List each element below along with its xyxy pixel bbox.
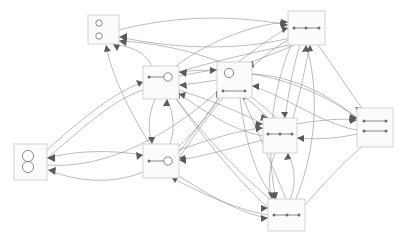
edges-layer — [47, 18, 362, 218]
arrowhead-n9-n5 — [302, 45, 309, 52]
endpoint-dot — [148, 76, 151, 79]
edge-n3-n5 — [176, 22, 288, 66]
node-double-bar-right[interactable] — [357, 108, 393, 147]
endpoint-dot-bottom-right — [385, 130, 388, 133]
edge-n2-n4 — [47, 92, 217, 165]
node-circle-and-bar[interactable] — [217, 62, 252, 98]
arrowhead-n3-n2 — [47, 154, 55, 162]
arrowhead-n6-n4 — [252, 83, 259, 90]
node-two-circles-touching[interactable] — [14, 144, 47, 180]
edge-n7-n9 — [179, 176, 268, 218]
edge-n6-n8 — [297, 134, 357, 139]
edge-n5-n6 — [318, 45, 362, 108]
edge-n4-n7 — [179, 96, 220, 152]
edge-n8-n6 — [297, 119, 357, 124]
node-box[interactable] — [143, 66, 179, 99]
endpoint-dot-right — [244, 90, 247, 93]
circle-glyph-bottom — [22, 161, 33, 172]
edge-n4-n6 — [252, 74, 357, 118]
edge-n9-n8 — [288, 153, 294, 199]
arrowhead-n7-n1 — [104, 45, 111, 52]
circle-glyph — [224, 68, 233, 77]
arrowhead-n7-n8 — [256, 125, 263, 132]
graph-svg — [0, 0, 402, 238]
node-box[interactable] — [88, 15, 119, 44]
endpoint-dot-top-right — [385, 120, 388, 123]
endpoint-dot-right — [318, 27, 321, 30]
arrowhead-n3-n4 — [210, 67, 217, 74]
endpoint-dot-left — [293, 27, 296, 30]
edge-n7-n8 — [179, 128, 263, 150]
edge-n8-n5 — [293, 45, 310, 118]
endpoint-dot — [148, 160, 151, 163]
endpoint-dot-bottom-left — [363, 130, 366, 133]
arrowhead-n4-n5 — [281, 26, 288, 33]
node-two-circles-separated[interactable] — [88, 15, 119, 44]
arrowhead-n6-n8 — [297, 135, 304, 142]
node-box[interactable] — [357, 108, 393, 147]
edge-n4-n5 — [238, 28, 288, 62]
arrowhead-n4-n3 — [179, 82, 187, 89]
arrowhead-n3-n9 — [261, 205, 268, 212]
arrowhead-n5-n8 — [281, 112, 288, 118]
circle-glyph-top — [96, 20, 102, 26]
edge-n9-n7 — [172, 178, 268, 215]
edge-n1-n5 — [119, 18, 288, 30]
arrowhead-n4-n1 — [119, 38, 127, 46]
endpoint-dot-top-left — [363, 120, 366, 123]
node-box[interactable] — [217, 62, 252, 98]
edge-n2-n3 — [47, 82, 143, 150]
node-bar-top-right[interactable] — [288, 11, 325, 45]
midpoint-dot — [279, 133, 282, 136]
edge-n5-n1 — [119, 37, 290, 47]
edge-n5-n4 — [246, 45, 295, 64]
circle-glyph — [164, 73, 172, 81]
endpoint-dot-right — [291, 133, 294, 136]
midpoint-dot — [286, 214, 289, 217]
arrowhead-n2-n7 — [136, 152, 143, 160]
endpoint-dot-left — [267, 133, 270, 136]
circle-glyph — [164, 157, 172, 165]
nodes-layer — [14, 11, 393, 231]
edge-n9-n6 — [305, 147, 362, 205]
arrowhead-n7-n2 — [48, 167, 56, 175]
arrowhead-n3-n1 — [113, 44, 120, 51]
arrowhead-n2-n3 — [136, 80, 143, 87]
edge-n7-n2 — [48, 170, 143, 180]
endpoint-dot-left — [273, 214, 276, 217]
edge-n3-n2 — [47, 90, 143, 158]
midpoint-dot — [305, 27, 308, 30]
endpoint-dot-right — [298, 214, 301, 217]
arrowhead-n7-n9 — [261, 215, 268, 222]
arrowheads-layer — [47, 19, 365, 222]
node-bar-middle-right[interactable] — [263, 118, 297, 153]
circle-glyph-top — [22, 150, 33, 161]
endpoint-dot-left — [222, 90, 225, 93]
arrowhead-n9-n8 — [284, 153, 291, 160]
edge-n8-n7 — [179, 140, 263, 160]
arrowhead-n7-n3 — [163, 99, 170, 106]
circle-glyph-bottom — [96, 33, 102, 39]
edge-n4-n1 — [119, 41, 220, 62]
node-dot-line-circle-lower[interactable] — [143, 144, 179, 178]
diagram-canvas — [0, 0, 402, 238]
node-dot-line-circle-upper[interactable] — [143, 66, 179, 99]
edge-n2-n7 — [47, 152, 143, 158]
node-bar-bottom[interactable] — [268, 199, 305, 231]
